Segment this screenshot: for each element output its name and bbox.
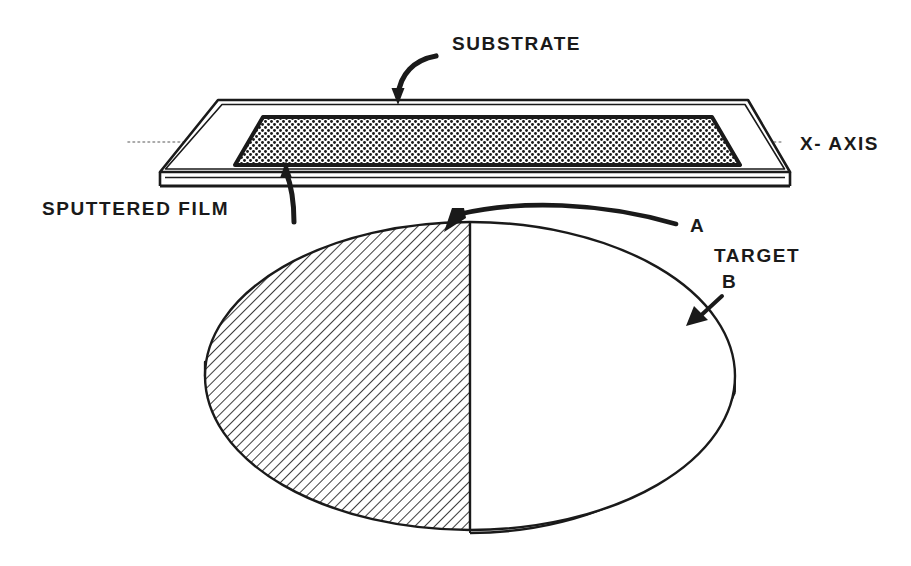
diagram-canvas: SUBSTRATE SPUTTERED FILM X- AXIS A TARGE…	[0, 0, 911, 566]
sputtered-film-label: SPUTTERED FILM	[42, 198, 229, 219]
substrate-label: SUBSTRATE	[452, 33, 581, 54]
point-b-label: B	[722, 271, 736, 292]
target-label: TARGET	[714, 245, 800, 266]
point-a-label: A	[690, 215, 704, 236]
x-axis-label: X- AXIS	[800, 133, 879, 154]
substrate-callout	[392, 56, 437, 105]
target-disc	[205, 222, 735, 533]
sputtering-diagram: SUBSTRATE SPUTTERED FILM X- AXIS A TARGE…	[0, 0, 911, 566]
sputtered-film	[235, 117, 740, 165]
